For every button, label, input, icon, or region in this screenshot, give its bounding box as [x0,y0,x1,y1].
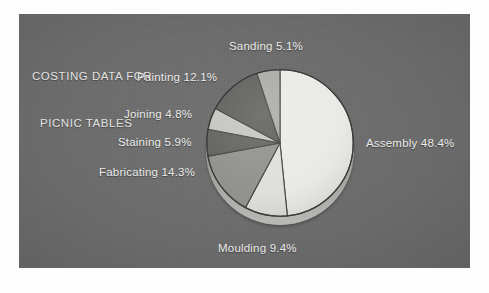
screenshot-root: COSTING DATA FOR PICNIC TABLES Sanding 5… [0,0,489,293]
chart-title-line-1: COSTING DATA FOR [32,69,152,85]
pie-label-fabricating: Fabricating 14.3% [99,166,195,178]
pie-outline [207,70,353,216]
pie-label-assembly: Assembly 48.4% [366,137,454,149]
pie-label-joining: Joining 4.8% [124,108,192,120]
pie-chart-svg [206,69,354,217]
pie-label-staining: Staining 5.9% [118,136,192,148]
pie-chart [206,69,354,217]
pie-label-moulding: Moulding 9.4% [218,242,297,254]
pie-label-sanding: Sanding 5.1% [229,40,303,52]
pie-label-painting: Painting 12.1% [137,71,217,83]
